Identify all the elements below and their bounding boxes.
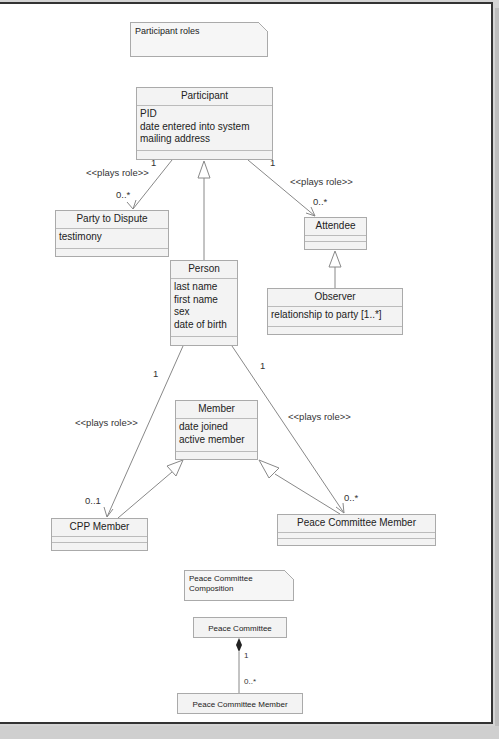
attribute: last name (174, 281, 234, 294)
attribute: first name (174, 294, 234, 307)
class-name: Peace Committee Member (278, 515, 435, 533)
class-attributes (305, 236, 366, 242)
class-cpp-member[interactable]: CPP Member (51, 518, 148, 551)
class-name: CPP Member (52, 519, 147, 537)
attribute: testimony (59, 231, 165, 244)
note-text-line2: Composition (189, 584, 289, 594)
mult-participant-attendee-source: 1 (270, 157, 275, 168)
attribute: relationship to party [1..*] (271, 309, 399, 322)
attribute: date joined (179, 421, 254, 434)
class-attributes: last name first name sex date of birth (171, 279, 237, 337)
class-name: Attendee (305, 218, 366, 236)
class-observer[interactable]: Observer relationship to party [1..*] (267, 288, 403, 335)
mult-composition-source: 1 (244, 651, 248, 660)
mult-participant-party-source: 1 (151, 157, 156, 168)
attribute: sex (174, 306, 234, 319)
class-name: Observer (268, 289, 402, 307)
mult-participant-party-target: 0..* (116, 189, 130, 200)
mult-composition-target: 0..* (244, 677, 256, 686)
mult-participant-attendee-target: 0..* (313, 196, 327, 207)
class-name: Person (171, 261, 237, 279)
class-peace-committee-member[interactable]: Peace Committee Member (277, 514, 436, 546)
class-person[interactable]: Person last name first name sex date of … (170, 260, 238, 346)
attribute: mailing address (140, 133, 269, 146)
class-attributes: relationship to party [1..*] (268, 307, 402, 327)
attribute: date entered into system (140, 121, 269, 134)
mult-person-cpp-source: 1 (153, 368, 158, 379)
note-participant-roles: Participant roles (130, 22, 268, 57)
mult-person-pcm-target: 0..* (344, 492, 358, 503)
class-attributes (52, 537, 147, 543)
mult-person-cpp-target: 0..1 (85, 495, 101, 506)
note-composition: Peace Committee Composition (184, 570, 294, 601)
mult-person-pcm-source: 1 (260, 360, 265, 371)
note-text: Participant roles (135, 26, 200, 36)
stereotype-participant-party: <<plays role>> (86, 167, 149, 178)
class-party-to-dispute[interactable]: Party to Dispute testimony (55, 210, 169, 257)
class-name: Peace Committee (194, 618, 286, 640)
stereotype-person-cpp: <<plays role>> (75, 417, 138, 428)
page-shadow-bottom (0, 726, 499, 739)
class-name: Party to Dispute (56, 211, 168, 229)
class-peace-committee-member-composed[interactable]: Peace Committee Member (177, 693, 303, 714)
class-attributes: date joined active member (176, 419, 257, 452)
class-member[interactable]: Member date joined active member (175, 400, 258, 460)
class-attendee[interactable]: Attendee (304, 217, 367, 250)
class-attributes (278, 533, 435, 539)
class-attributes: testimony (56, 229, 168, 249)
stereotype-participant-attendee: <<plays role>> (290, 176, 353, 187)
note-fold-icon (258, 22, 268, 32)
attribute: date of birth (174, 319, 234, 332)
class-name: Participant (137, 88, 272, 106)
class-name: Peace Committee Member (178, 694, 302, 716)
class-attributes: PID date entered into system mailing add… (137, 106, 272, 151)
note-text-line1: Peace Committee (189, 574, 289, 584)
class-participant[interactable]: Participant PID date entered into system… (136, 87, 273, 160)
attribute: PID (140, 108, 269, 121)
note-fold-icon (284, 570, 294, 580)
stereotype-person-pcm: <<plays role>> (288, 411, 351, 422)
class-name: Member (176, 401, 257, 419)
class-peace-committee[interactable]: Peace Committee (193, 617, 287, 638)
attribute: active member (179, 434, 254, 447)
page-shadow-right (495, 8, 499, 739)
